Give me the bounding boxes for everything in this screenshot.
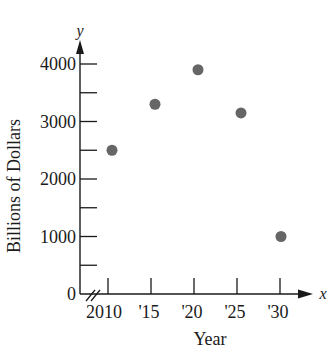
x-tick-label: '30 (267, 302, 288, 322)
y-tick-label: 3000 (40, 112, 76, 132)
data-point (193, 64, 204, 75)
data-point (276, 231, 287, 242)
data-point (236, 107, 247, 118)
data-point (150, 99, 161, 110)
data-point (107, 145, 118, 156)
x-axis-variable: x (318, 285, 326, 302)
x-tick-label: '25 (224, 302, 245, 322)
x-axis-label: Year (193, 329, 226, 349)
y-axis (76, 40, 84, 294)
y-tick-label: 0 (67, 284, 76, 304)
y-axis-label: Billions of Dollars (4, 119, 24, 253)
y-ticks: 01000200030004000 (40, 54, 97, 304)
y-axis-arrow-icon (76, 40, 84, 54)
x-axis-arrow-icon (298, 290, 313, 299)
scatter-chart: y x 01000200030004000 2010'15'20'25'30 Y… (0, 0, 333, 352)
y-tick-label: 4000 (40, 54, 76, 74)
x-ticks: 2010'15'20'25'30 (86, 278, 289, 322)
y-tick-label: 1000 (40, 227, 76, 247)
data-points (107, 64, 287, 242)
x-tick-label: '20 (181, 302, 202, 322)
x-tick-label: 2010 (86, 302, 122, 322)
y-tick-label: 2000 (40, 169, 76, 189)
x-axis (80, 290, 313, 302)
y-axis-variable: y (74, 22, 84, 40)
x-tick-label: '15 (138, 302, 159, 322)
axis-break-icon (86, 290, 100, 301)
